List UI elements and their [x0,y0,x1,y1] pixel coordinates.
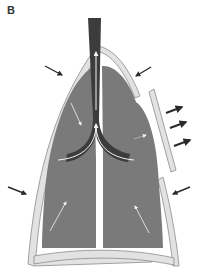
inward-arrow-upper-right [136,67,151,76]
inward-arrow-lower-right [173,187,190,194]
inward-arrow-upper-left [45,66,62,75]
lungs [42,66,163,249]
outward-arrow-flail-1 [166,107,182,113]
inward-arrow-lower-left [8,187,26,194]
flail-chest-diagram [0,0,197,271]
outward-arrow-flail-2 [170,122,186,128]
outward-arrow-flail-3 [174,140,190,146]
